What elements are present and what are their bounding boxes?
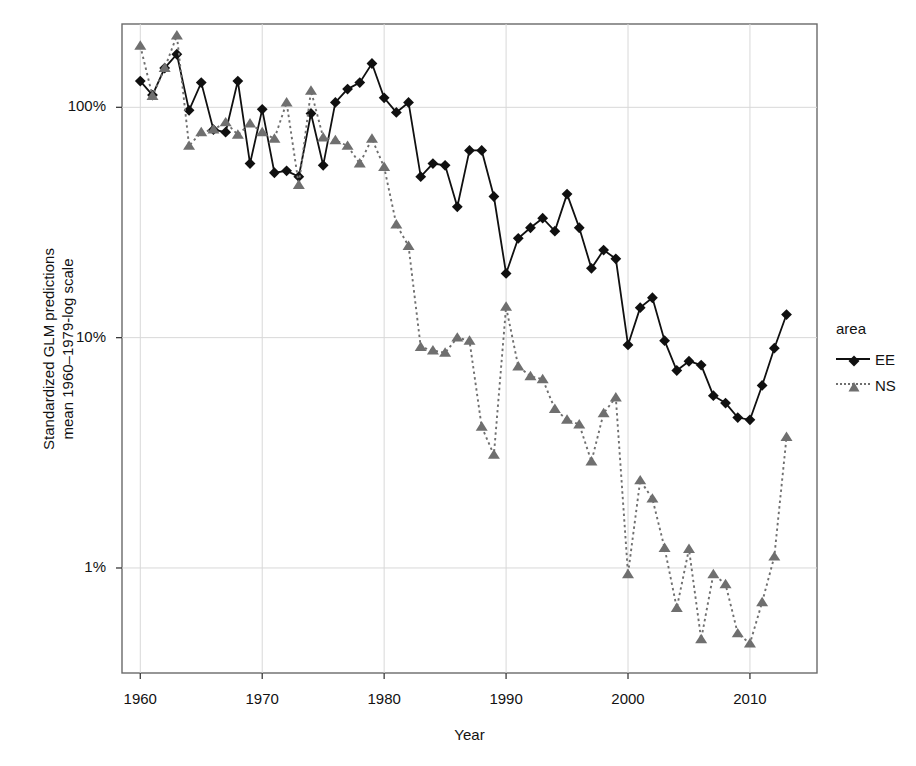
x-tick-label: 1980 bbox=[349, 690, 419, 707]
y-axis-ticklabels: 100%10%1% bbox=[30, 0, 106, 766]
legend-item-ns[interactable]: NS bbox=[836, 372, 916, 398]
legend: area EE NS bbox=[836, 320, 916, 398]
legend-label-ee: EE bbox=[875, 351, 895, 368]
legend-label-ns: NS bbox=[875, 377, 896, 394]
triangle-marker-icon bbox=[848, 379, 860, 397]
legend-key-ee bbox=[836, 350, 870, 368]
diamond-marker-icon bbox=[848, 353, 860, 371]
x-tick-label: 1960 bbox=[105, 690, 175, 707]
y-tick-label: 1% bbox=[36, 558, 106, 575]
x-tick-label: 2000 bbox=[593, 690, 663, 707]
x-tick-label: 2010 bbox=[715, 690, 785, 707]
legend-title: area bbox=[836, 320, 916, 337]
x-tick-label: 1990 bbox=[471, 690, 541, 707]
legend-item-ee[interactable]: EE bbox=[836, 346, 916, 372]
x-axis-label: Year bbox=[122, 726, 817, 743]
x-tick-label: 1970 bbox=[227, 690, 297, 707]
y-tick-label: 100% bbox=[36, 97, 106, 114]
plot-canvas bbox=[0, 0, 916, 766]
legend-key-ns bbox=[836, 376, 870, 394]
y-tick-label: 10% bbox=[36, 328, 106, 345]
chart-figure: Standardized GLM predictions mean 1960–1… bbox=[0, 0, 916, 766]
